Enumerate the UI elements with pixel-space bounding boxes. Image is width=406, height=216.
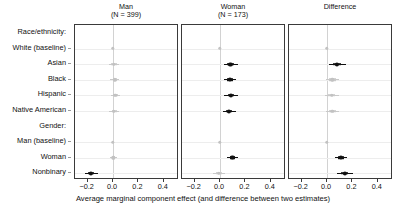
estimate-difference-nonbinary — [289, 169, 391, 178]
estimate-difference-woman — [289, 153, 391, 162]
estimate-woman-woman — [182, 153, 284, 162]
point-estimate-marker — [325, 47, 328, 50]
estimate-man-man-baseline — [75, 138, 177, 147]
point-estimate-marker — [228, 62, 232, 66]
estimate-difference-white-baseline — [289, 44, 391, 53]
point-estimate-marker — [230, 156, 234, 160]
row-label-nonbinary: Nonbinary — [32, 168, 66, 176]
x-axis-tick-label: −0.2 — [186, 182, 200, 191]
x-axis-tick-label: 0.2 — [239, 182, 249, 191]
x-axis-tick-label: 0.4 — [158, 182, 168, 191]
row-label-hispanic: Hispanic — [38, 90, 66, 98]
point-estimate-marker — [227, 109, 231, 113]
row-label-asian: Asian — [48, 59, 67, 67]
x-axis-tick-label: 0.0 — [107, 182, 117, 191]
point-estimate-marker — [218, 140, 221, 143]
row-group-header-race-ethnicity: Race/ethnicity: — [18, 28, 66, 36]
point-estimate-marker — [339, 156, 343, 160]
y-axis-tick — [68, 157, 71, 158]
estimate-man-black — [75, 75, 177, 84]
x-axis-title: Average marginal component effect (and d… — [0, 194, 406, 204]
row-label-black: Black — [48, 75, 66, 83]
y-axis-tick — [68, 141, 71, 142]
y-axis-tick — [68, 110, 71, 111]
estimate-woman-black — [182, 75, 284, 84]
estimate-difference-black — [289, 75, 391, 84]
y-axis-tick — [68, 94, 71, 95]
estimate-woman-nonbinary — [182, 169, 284, 178]
estimate-man-nonbinary — [75, 169, 177, 178]
x-axis-tick-label: 0.2 — [346, 182, 356, 191]
panel-difference — [288, 24, 392, 179]
panel-man — [74, 24, 178, 179]
x-axis-tick-label: 0.4 — [265, 182, 275, 191]
point-estimate-marker — [342, 171, 346, 175]
point-estimate-marker — [229, 93, 233, 97]
estimate-woman-man-baseline — [182, 138, 284, 147]
estimate-woman-native-american — [182, 107, 284, 116]
point-estimate-marker — [111, 140, 114, 143]
panel-sample-size: (N = 399) — [74, 11, 178, 19]
x-axis-tick-label: −0.2 — [79, 182, 93, 191]
coefficient-plot-figure: Race/ethnicity:White (baseline)AsianBlac… — [0, 0, 406, 216]
estimate-woman-hispanic — [182, 91, 284, 100]
estimate-man-woman — [75, 153, 177, 162]
estimate-difference-native-american — [289, 107, 391, 116]
x-axis-tick-label: −0.2 — [293, 182, 307, 191]
y-axis-tick — [68, 48, 71, 49]
panel-title-difference: Difference — [288, 3, 392, 11]
row-label-man-baseline: Man (baseline) — [17, 137, 66, 145]
row-label-woman: Woman — [41, 153, 66, 161]
y-axis-tick — [68, 79, 71, 80]
x-axis-tick-label: 0.4 — [372, 182, 382, 191]
point-estimate-marker — [228, 78, 232, 82]
estimate-man-hispanic — [75, 91, 177, 100]
row-label-white-baseline: White (baseline) — [13, 44, 66, 52]
point-estimate-marker — [325, 140, 328, 143]
estimate-man-native-american — [75, 107, 177, 116]
x-axis-tick-label: 0.0 — [214, 182, 224, 191]
estimate-difference-hispanic — [289, 91, 391, 100]
panel-woman — [181, 24, 285, 179]
estimate-difference-man-baseline — [289, 138, 391, 147]
estimate-woman-asian — [182, 60, 284, 69]
estimate-man-asian — [75, 60, 177, 69]
row-group-header-gender: Gender: — [39, 122, 66, 130]
panel-sample-size: (N = 173) — [181, 11, 285, 19]
point-estimate-marker — [89, 171, 93, 175]
y-axis-tick — [68, 63, 71, 64]
x-axis-tick-label: 0.2 — [132, 182, 142, 191]
panel-title-text: Difference — [324, 2, 357, 11]
estimate-woman-white-baseline — [182, 44, 284, 53]
point-estimate-marker — [218, 47, 221, 50]
x-axis-tick-label: 0.0 — [321, 182, 331, 191]
panel-title-man: Man(N = 399) — [74, 3, 178, 20]
estimate-man-white-baseline — [75, 44, 177, 53]
point-estimate-marker — [335, 62, 339, 66]
y-axis-tick — [68, 172, 71, 173]
panel-title-woman: Woman(N = 173) — [181, 3, 285, 20]
row-label-axis: Race/ethnicity:White (baseline)AsianBlac… — [0, 0, 71, 216]
row-label-native-american: Native American — [12, 106, 66, 114]
point-estimate-marker — [111, 47, 114, 50]
estimate-difference-asian — [289, 60, 391, 69]
